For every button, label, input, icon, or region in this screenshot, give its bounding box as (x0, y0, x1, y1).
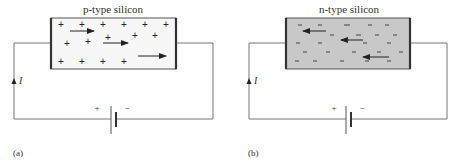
current-arrow-icon (12, 78, 17, 84)
battery-a (111, 106, 116, 134)
semiconductor-drift-diagram: p-type silicon + + + + + + + + + + + + +… (0, 0, 453, 160)
svg-text:+: + (100, 56, 106, 67)
svg-text:+: + (105, 32, 111, 43)
svg-text:+: + (142, 19, 148, 30)
svg-text:+: + (132, 30, 138, 41)
caption-b: (b) (248, 148, 259, 158)
svg-text:+: + (121, 19, 127, 30)
current-arrow-icon (247, 78, 252, 84)
svg-text:+: + (79, 56, 85, 67)
n-type-block (286, 18, 410, 69)
svg-text:+: + (58, 56, 64, 67)
svg-text:+: + (85, 36, 91, 47)
svg-text:+: + (163, 19, 169, 30)
caption-a: (a) (13, 148, 23, 158)
panel-b: n-type silicon (247, 3, 448, 158)
battery-plus-b: + (331, 103, 336, 113)
svg-text:+: + (152, 30, 158, 41)
current-label-b: I (253, 75, 258, 86)
battery-b (346, 106, 351, 134)
battery-minus-a: − (124, 103, 129, 113)
battery-minus-b: − (359, 103, 364, 113)
p-type-title: p-type silicon (83, 3, 144, 15)
svg-text:+: + (100, 19, 106, 30)
current-label-a: I (18, 75, 23, 86)
svg-text:+: + (79, 19, 85, 30)
battery-plus-a: + (94, 103, 99, 113)
panel-a: p-type silicon + + + + + + + + + + + + +… (12, 3, 214, 158)
n-type-title: n-type silicon (319, 3, 380, 15)
svg-text:+: + (121, 56, 127, 67)
svg-text:+: + (58, 19, 64, 30)
svg-text:+: + (64, 38, 70, 49)
